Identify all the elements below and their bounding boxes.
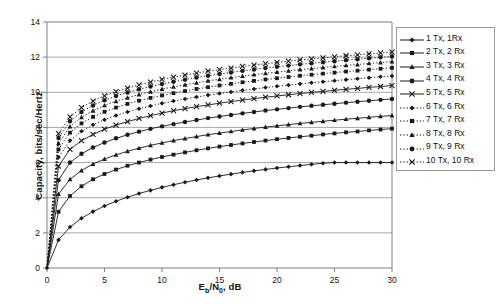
series-7 xyxy=(47,66,394,268)
legend-item-7: 7 Tx, 7 Rx xyxy=(399,113,492,127)
marker-square xyxy=(321,72,325,76)
marker-circle xyxy=(194,118,198,122)
marker-diamond xyxy=(206,176,211,181)
marker-square xyxy=(321,133,325,137)
marker-triangle xyxy=(309,66,314,70)
marker-triangle xyxy=(79,115,84,119)
marker-diamond xyxy=(171,99,176,104)
marker-circle xyxy=(206,116,210,120)
legend-label-2: 2 Tx, 2 Rx xyxy=(425,47,465,56)
marker-square xyxy=(195,148,199,152)
marker-square xyxy=(390,66,394,70)
marker-circle xyxy=(321,60,325,64)
legend-label-8: 8 Tx, 8 Rx xyxy=(425,129,465,138)
marker-square xyxy=(114,168,118,172)
series-line-6 xyxy=(47,76,392,268)
marker-square xyxy=(252,140,256,144)
legend-item-2: 2 Tx, 2 Rx xyxy=(399,45,492,59)
legend-marker-cross-icon xyxy=(399,154,425,166)
series-line-4 xyxy=(47,99,392,268)
marker-square xyxy=(333,71,337,75)
marker-circle xyxy=(125,90,129,94)
marker-diamond xyxy=(275,84,280,89)
legend-marker-triangle-icon xyxy=(399,127,425,139)
series-line-7 xyxy=(47,68,392,268)
marker-diamond xyxy=(240,170,245,175)
marker-circle xyxy=(148,127,152,131)
marker-circle xyxy=(102,140,106,144)
legend-label-4: 4 Tx, 4 Rx xyxy=(425,74,465,83)
marker-triangle xyxy=(332,64,337,68)
marker-square xyxy=(103,172,107,176)
marker-triangle xyxy=(148,89,153,93)
marker-square xyxy=(367,68,371,72)
marker-diamond xyxy=(344,77,349,82)
marker-triangle xyxy=(263,71,268,75)
marker-circle xyxy=(378,98,382,102)
marker-square xyxy=(137,99,141,103)
marker-circle xyxy=(390,54,394,58)
marker-square xyxy=(80,121,84,125)
legend-item-6: 6 Tx, 6 Rx xyxy=(399,99,492,113)
marker-circle xyxy=(410,146,415,151)
marker-diamond xyxy=(367,160,372,165)
marker-diamond xyxy=(378,75,383,80)
marker-circle xyxy=(275,65,279,69)
marker-diamond xyxy=(125,110,130,115)
legend-item-5: 5 Tx, 5 Rx xyxy=(399,85,492,99)
marker-diamond xyxy=(102,117,107,122)
marker-square xyxy=(195,87,199,91)
marker-square xyxy=(379,128,383,132)
marker-square xyxy=(298,135,302,139)
marker-circle xyxy=(355,100,359,104)
marker-diamond xyxy=(378,160,383,165)
marker-square xyxy=(137,161,141,165)
legend-marker-circle-icon xyxy=(399,73,425,85)
marker-diamond xyxy=(206,93,211,98)
marker-diamond xyxy=(355,160,360,165)
legend-item-9: 9 Tx, 9 Rx xyxy=(399,140,492,154)
series-line-2 xyxy=(47,129,392,268)
marker-square xyxy=(91,115,95,119)
marker-diamond xyxy=(229,90,234,95)
marker-square xyxy=(310,73,314,77)
marker-diamond xyxy=(137,107,142,112)
marker-square xyxy=(80,184,84,188)
marker-square xyxy=(160,155,164,159)
marker-circle xyxy=(125,133,129,137)
legend-label-7: 7 Tx, 7 Rx xyxy=(425,115,465,124)
marker-triangle xyxy=(79,168,84,172)
y-axis-title: Capacity, bits/sec/Hertz xyxy=(33,46,44,246)
marker-diamond xyxy=(286,83,291,88)
marker-circle xyxy=(229,113,233,117)
marker-square xyxy=(356,130,360,134)
marker-circle xyxy=(194,75,198,79)
marker-square xyxy=(160,94,164,98)
marker-circle xyxy=(240,111,244,115)
series-line-1 xyxy=(47,163,392,268)
marker-square xyxy=(275,76,279,80)
marker-diamond xyxy=(194,95,199,100)
marker-diamond xyxy=(125,195,130,200)
marker-diamond xyxy=(390,160,395,165)
marker-square xyxy=(356,69,360,73)
y-tick-label-14: 14 xyxy=(31,17,41,27)
marker-square xyxy=(410,51,414,55)
marker-square xyxy=(310,134,314,138)
marker-diamond xyxy=(263,167,268,172)
marker-diamond xyxy=(183,97,188,102)
marker-diamond xyxy=(410,105,415,110)
marker-diamond xyxy=(309,80,314,85)
y-axis-title-text: Capacity, bits/sec/Hertz xyxy=(33,91,44,199)
marker-square xyxy=(218,145,222,149)
marker-square xyxy=(57,210,61,214)
marker-circle xyxy=(263,108,267,112)
marker-triangle xyxy=(240,74,245,78)
legend-marker-circle-icon xyxy=(399,141,425,153)
marker-circle xyxy=(321,103,325,107)
marker-diamond xyxy=(390,74,395,79)
marker-diamond xyxy=(114,113,119,118)
marker-circle xyxy=(217,114,221,118)
marker-circle xyxy=(286,106,290,110)
marker-square xyxy=(367,129,371,133)
